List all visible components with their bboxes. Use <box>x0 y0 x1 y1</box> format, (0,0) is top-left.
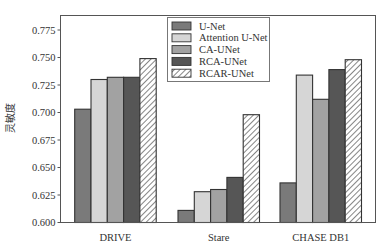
bar-rcar-unet-drive <box>140 59 156 223</box>
bar-attention-u-net-drive <box>91 80 107 223</box>
bar-rcar-unet-chase-db1 <box>345 60 361 223</box>
bar-ca-unet-chase-db1 <box>313 99 329 222</box>
y-tick-label: 0.675 <box>32 135 56 146</box>
y-tick-label: 0.750 <box>32 52 56 63</box>
x-category-label: CHASE DB1 <box>292 232 349 243</box>
chart-canvas: 0.6000.6250.6500.6750.7000.7250.7500.775… <box>0 0 392 250</box>
legend-label: U-Net <box>199 21 225 32</box>
y-tick-label: 0.725 <box>32 80 56 91</box>
bar-rca-unet-stare <box>227 177 243 222</box>
y-axis: 0.6000.6250.6500.6750.7000.7250.7500.775 <box>32 25 61 229</box>
bar-attention-u-net-chase-db1 <box>296 75 312 222</box>
legend-swatch <box>172 57 191 65</box>
legend-swatch <box>172 69 191 77</box>
x-category-label: Stare <box>208 232 230 243</box>
legend-label: CA-UNet <box>199 44 240 55</box>
bar-u-net-stare <box>178 210 194 222</box>
x-axis: DRIVEStareCHASE DB1 <box>99 232 349 243</box>
y-tick-label: 0.775 <box>32 25 56 36</box>
y-axis-label: 灵敏度 <box>4 103 16 133</box>
sensitivity-bar-chart: 0.6000.6250.6500.6750.7000.7250.7500.775… <box>0 0 392 250</box>
legend-label: RCA-UNet <box>199 56 247 67</box>
y-tick-label: 0.625 <box>32 190 56 201</box>
legend-swatch <box>172 34 191 42</box>
bar-ca-unet-drive <box>107 77 123 222</box>
legend-swatch <box>172 46 191 54</box>
x-category-label: DRIVE <box>99 232 131 243</box>
legend: U-NetAttention U-NetCA-UNetRCA-UNetRCAR-… <box>168 18 270 82</box>
bar-rca-unet-drive <box>124 77 140 222</box>
legend-swatch <box>172 22 191 30</box>
legend-label: Attention U-Net <box>199 32 268 43</box>
bar-rca-unet-chase-db1 <box>329 70 345 223</box>
bar-attention-u-net-stare <box>194 192 210 223</box>
legend-label: RCAR-UNet <box>199 68 254 79</box>
bars-layer <box>75 59 362 223</box>
bar-ca-unet-stare <box>211 190 227 223</box>
y-tick-label: 0.700 <box>32 107 56 118</box>
bar-rcar-unet-stare <box>243 115 259 223</box>
y-tick-label: 0.650 <box>32 162 56 173</box>
bar-u-net-drive <box>75 109 91 222</box>
bar-u-net-chase-db1 <box>280 183 296 223</box>
y-tick-label: 0.600 <box>32 217 56 228</box>
